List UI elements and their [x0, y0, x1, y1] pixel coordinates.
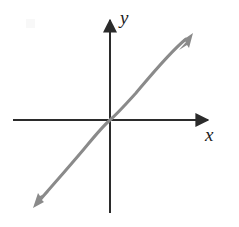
- graph-canvas: y x: [0, 0, 239, 227]
- x-axis-label: x: [204, 124, 214, 145]
- cubic-function-figure: y x: [0, 0, 239, 227]
- y-axis-label: y: [118, 7, 129, 28]
